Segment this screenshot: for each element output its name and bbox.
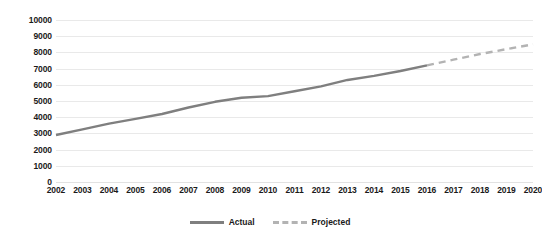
x-tick-label: 2003 — [73, 186, 92, 195]
gridline — [56, 182, 533, 183]
x-tick-label: 2014 — [365, 186, 384, 195]
series-layer — [56, 20, 533, 182]
x-tick-label: 2012 — [312, 186, 331, 195]
x-tick-label: 2004 — [100, 186, 119, 195]
x-tick-label: 2011 — [285, 186, 303, 195]
y-tick-label: 2000 — [0, 145, 52, 154]
x-tick-label: 2013 — [338, 186, 357, 195]
y-tick-label: 9000 — [0, 32, 52, 41]
chart-legend: ActualProjected — [0, 212, 540, 232]
y-axis: 1000090008000700060005000400030002000100… — [0, 20, 52, 182]
y-tick-label: 7000 — [0, 64, 52, 73]
x-tick-label: 2010 — [259, 186, 278, 195]
series-line-actual — [56, 65, 427, 135]
plot-area — [56, 20, 533, 182]
x-tick-label: 2020 — [524, 186, 542, 195]
legend-swatch-actual-icon — [190, 221, 224, 224]
legend-item-projected[interactable]: Projected — [273, 218, 351, 227]
x-tick-label: 2016 — [418, 186, 437, 195]
x-tick-label: 2005 — [126, 186, 145, 195]
legend-label: Actual — [229, 218, 255, 227]
y-tick-label: 1000 — [0, 162, 52, 171]
legend-label: Projected — [312, 218, 351, 227]
y-tick-label: 10000 — [0, 16, 52, 25]
y-tick-label: 3000 — [0, 129, 52, 138]
x-tick-label: 2017 — [444, 186, 463, 195]
y-tick-label: 4000 — [0, 113, 52, 122]
y-tick-label: 8000 — [0, 48, 52, 57]
x-tick-label: 2002 — [47, 186, 66, 195]
legend-swatch-projected-icon — [273, 221, 307, 224]
series-line-projected — [427, 44, 533, 65]
y-tick-label: 5000 — [0, 97, 52, 106]
y-tick-label: 6000 — [0, 81, 52, 90]
x-tick-label: 2009 — [232, 186, 251, 195]
x-tick-label: 2008 — [206, 186, 225, 195]
x-tick-label: 2006 — [153, 186, 172, 195]
x-tick-label: 2015 — [391, 186, 410, 195]
x-tick-label: 2019 — [497, 186, 516, 195]
y-tick-label: 0 — [0, 178, 52, 187]
x-tick-label: 2018 — [471, 186, 490, 195]
x-tick-label: 2007 — [179, 186, 198, 195]
x-axis: 2002200320042005200620072008200920102011… — [56, 186, 533, 202]
legend-item-actual[interactable]: Actual — [190, 218, 255, 227]
